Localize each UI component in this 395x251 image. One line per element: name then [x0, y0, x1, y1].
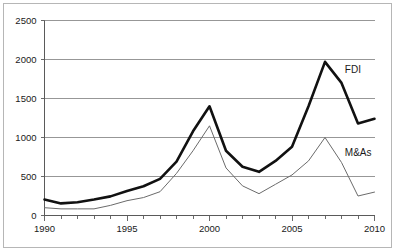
- axes: [45, 21, 375, 216]
- y-tick-label-2000: 2000: [15, 54, 36, 65]
- series-line-m-as: [45, 126, 375, 209]
- x-tick-label-2010: 2010: [364, 223, 385, 234]
- x-tick-label-2005: 2005: [281, 223, 302, 234]
- chart-figure: 05001000150020002500 1990199520002005201…: [0, 0, 395, 251]
- y-tick-labels: 05001000150020002500: [15, 15, 36, 221]
- y-tick-label-0: 0: [31, 210, 36, 221]
- x-tick-labels: 19901995200020052010: [34, 223, 385, 234]
- y-tick-label-1000: 1000: [15, 132, 36, 143]
- x-tick-label-1990: 1990: [34, 223, 55, 234]
- series-line-fdi: [45, 62, 375, 204]
- series-label-fdi: FDI: [345, 64, 361, 75]
- y-tick-label-2500: 2500: [15, 15, 36, 26]
- x-tick-label-1995: 1995: [116, 223, 137, 234]
- series-labels: FDIM&As: [345, 64, 372, 158]
- data-series: [45, 62, 375, 209]
- y-tick-label-1500: 1500: [15, 93, 36, 104]
- x-tick-label-2000: 2000: [199, 223, 220, 234]
- gridlines: [45, 21, 375, 177]
- y-tick-label-500: 500: [21, 171, 37, 182]
- tick-marks: [41, 21, 375, 221]
- line-chart-plot: 05001000150020002500 1990199520002005201…: [0, 0, 395, 251]
- series-label-m-as: M&As: [345, 147, 372, 158]
